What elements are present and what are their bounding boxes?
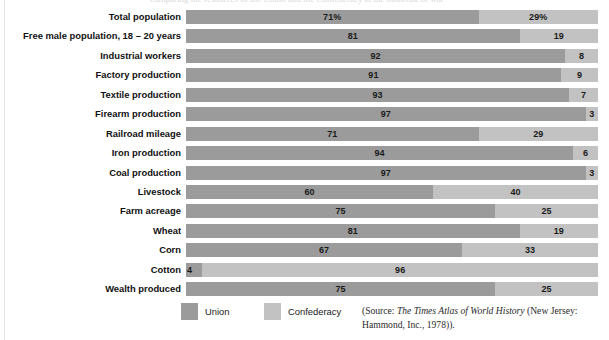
bar-segment-confederacy: 3 (586, 166, 598, 180)
stacked-bar-track: 71%29% (186, 10, 598, 24)
bar-row: Coal production973 (0, 165, 609, 184)
bar-segment-union: 81 (186, 29, 520, 43)
bar-segment-union: 75 (186, 282, 495, 296)
bar-row-label: Corn (0, 243, 181, 257)
bar-value-confederacy: 19 (554, 224, 564, 238)
bar-value-union: 94 (375, 146, 385, 160)
bar-value-union: 97 (381, 107, 391, 121)
resources-comparison-bar-chart: comparing the resources of the Union and… (0, 0, 609, 340)
stacked-bar-track: 6040 (186, 185, 598, 199)
bar-segment-confederacy: 9 (561, 68, 598, 82)
bar-segment-union: 94 (186, 146, 573, 160)
bar-value-union: 97 (381, 166, 391, 180)
bar-value-union: 60 (304, 185, 314, 199)
bar-row-label: Iron production (0, 146, 181, 160)
stacked-bar-track: 928 (186, 49, 598, 63)
bar-segment-confederacy: 25 (495, 282, 598, 296)
bar-segment-confederacy: 19 (520, 224, 598, 238)
bar-row-label: Total population (0, 10, 181, 24)
stacked-bar-track: 973 (186, 166, 598, 180)
bar-row: Wheat8119 (0, 223, 609, 242)
stacked-bar-track: 7129 (186, 127, 598, 141)
bar-segment-confederacy: 3 (586, 107, 598, 121)
bar-value-confederacy: 96 (395, 263, 405, 277)
bar-segment-union: 93 (186, 88, 569, 102)
bar-value-union: 71 (327, 127, 337, 141)
bar-row: Total population71%29% (0, 9, 609, 28)
stacked-bar-track: 6733 (186, 243, 598, 257)
bar-value-confederacy: 33 (525, 243, 535, 257)
bar-value-union: 4 (187, 263, 192, 277)
legend-swatch-confederacy-icon (264, 303, 281, 320)
bar-value-confederacy: 7 (581, 88, 586, 102)
bar-row-label: Livestock (0, 185, 181, 199)
bar-segment-union: 71% (186, 10, 479, 24)
source-citation: (Source: The Times Atlas of World Histor… (362, 304, 602, 331)
bar-row-label: Coal production (0, 166, 181, 180)
bar-row-label: Farm acreage (0, 204, 181, 218)
bar-value-union: 81 (348, 224, 358, 238)
bar-segment-confederacy: 19 (520, 29, 598, 43)
bar-segment-union: 60 (186, 185, 433, 199)
bar-value-union: 81 (348, 29, 358, 43)
stacked-bar-track: 973 (186, 107, 598, 121)
bar-segment-confederacy: 29 (479, 127, 598, 141)
bar-value-union: 67 (319, 243, 329, 257)
stacked-bar-track: 946 (186, 146, 598, 160)
legend-label-union: Union (205, 306, 230, 317)
legend-item-union: Union (181, 303, 230, 320)
bar-segment-union: 97 (186, 166, 586, 180)
cropped-caption-text: comparing the resources of the Union and… (150, 0, 444, 4)
bar-value-confederacy: 3 (589, 107, 594, 121)
bar-value-confederacy: 9 (577, 68, 582, 82)
bar-segment-confederacy: 40 (433, 185, 598, 199)
bar-row: Farm acreage7525 (0, 203, 609, 222)
bar-row-label: Railroad mileage (0, 127, 181, 141)
bar-segment-union: 92 (186, 49, 565, 63)
legend-item-confederacy: Confederacy (264, 303, 341, 320)
bar-value-confederacy: 29 (533, 127, 543, 141)
bar-row: Textile production937 (0, 87, 609, 106)
stacked-bar-track: 7525 (186, 282, 598, 296)
bar-row: Firearm production973 (0, 106, 609, 125)
bar-row: Wealth produced7525 (0, 281, 609, 300)
bar-value-confederacy: 29% (529, 10, 547, 24)
bar-value-union: 92 (370, 49, 380, 63)
bar-segment-confederacy: 29% (479, 10, 598, 24)
bar-segment-union: 81 (186, 224, 520, 238)
bar-segment-confederacy: 8 (565, 49, 598, 63)
stacked-bar-track: 8119 (186, 29, 598, 43)
bar-value-confederacy: 25 (541, 204, 551, 218)
bar-segment-union: 67 (186, 243, 462, 257)
bar-segment-union: 91 (186, 68, 561, 82)
source-title: The Times Atlas of World History (397, 305, 525, 316)
bar-value-union: 71% (323, 10, 341, 24)
bar-row: Free male population, 18 – 20 years8119 (0, 28, 609, 47)
bar-row: Iron production946 (0, 145, 609, 164)
stacked-bar-track: 919 (186, 68, 598, 82)
bar-row: Cotton496 (0, 262, 609, 281)
bar-segment-union: 97 (186, 107, 586, 121)
bar-value-confederacy: 25 (541, 282, 551, 296)
bar-segment-confederacy: 7 (569, 88, 598, 102)
bar-row: Corn6733 (0, 242, 609, 261)
bar-value-union: 93 (372, 88, 382, 102)
stacked-bar-track: 496 (186, 263, 598, 277)
bar-segment-union: 4 (186, 263, 202, 277)
stacked-bar-track: 937 (186, 88, 598, 102)
bar-segment-confederacy: 25 (495, 204, 598, 218)
stacked-bar-track: 7525 (186, 204, 598, 218)
bar-value-confederacy: 40 (510, 185, 520, 199)
bar-row-label: Cotton (0, 263, 181, 277)
bar-value-confederacy: 19 (554, 29, 564, 43)
bar-segment-confederacy: 96 (202, 263, 598, 277)
bar-row: Livestock6040 (0, 184, 609, 203)
bar-row: Railroad mileage7129 (0, 126, 609, 145)
bar-row: Factory production919 (0, 67, 609, 86)
bar-segment-union: 75 (186, 204, 495, 218)
bar-row: Industrial workers928 (0, 48, 609, 67)
cropped-caption-strip: comparing the resources of the Union and… (0, 0, 609, 8)
bar-row-label: Wheat (0, 224, 181, 238)
bar-segment-confederacy: 6 (573, 146, 598, 160)
source-prefix: (Source: (362, 305, 395, 316)
